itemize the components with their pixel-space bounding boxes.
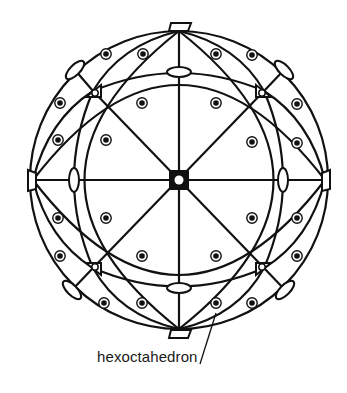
face-pole-dot-icon [101,213,111,223]
face-pole-dot-icon [211,98,221,108]
face-pole-dot-icon [292,213,302,223]
face-pole-dot-icon [137,298,147,308]
face-pole-dot-icon [53,135,63,145]
face-pole-dot-icon [55,98,65,108]
face-pole-dot-icon [247,298,257,308]
four-fold-square-icon [169,23,191,31]
four-fold-square-icon [28,170,36,191]
two-fold-ellipse-icon [278,168,288,192]
face-pole-dot-icon [137,251,147,261]
face-pole-dot-icon [101,49,111,59]
face-pole-dot-icon [99,298,109,308]
face-pole-dot-icon [53,213,63,223]
face-pole-dot-icon [292,138,302,148]
face-pole-dot-icon [137,98,147,108]
face-pole-dot-icon [292,99,302,109]
face-pole-dot-icon [211,251,221,261]
figure-label: hexoctahedron [97,348,198,365]
face-pole-dot-icon [211,298,221,308]
face-pole-dot-icon [138,49,148,59]
face-pole-dot-icon [211,49,221,59]
four-fold-square-icon [322,170,330,191]
face-pole-dot-icon [101,135,111,145]
two-fold-ellipse-icon [167,67,191,77]
face-pole-dot-icon [292,251,302,261]
two-fold-ellipse-icon [167,283,191,293]
face-pole-dot-icon [247,50,257,60]
face-pole-dot-icon [247,213,257,223]
face-pole-dot-icon [55,251,65,261]
two-fold-ellipse-icon [69,168,79,192]
face-pole-dot-icon [247,137,257,147]
arc-ul-b [93,31,179,91]
four-fold-square-icon [169,330,191,338]
